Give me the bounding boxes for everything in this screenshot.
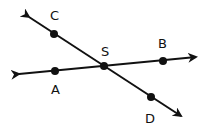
point-s — [100, 62, 108, 70]
label-a: A — [51, 82, 60, 97]
diagram-canvas: C S B A D — [0, 0, 209, 128]
label-d: D — [145, 111, 155, 126]
point-c — [50, 30, 58, 38]
label-b: B — [158, 36, 167, 51]
label-c: C — [50, 8, 59, 23]
label-s: S — [101, 44, 109, 59]
geometry-diagram: C S B A D — [0, 0, 209, 128]
point-a — [51, 67, 59, 75]
point-d — [147, 93, 155, 101]
point-b — [159, 57, 167, 65]
